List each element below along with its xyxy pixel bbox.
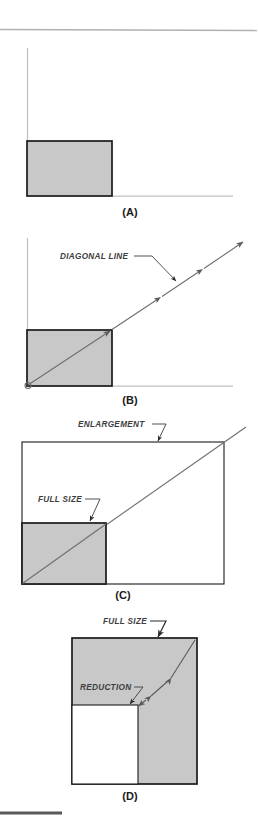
panel-d-label: (D) xyxy=(122,790,138,802)
panel-a-full-size-box xyxy=(27,141,112,196)
panel-b-diagonal-segment-1 xyxy=(112,299,158,330)
panel-d-reduction-box xyxy=(72,705,138,784)
panel-b-diagonal-line-callout-text: DIAGONAL LINE xyxy=(60,252,129,261)
panel-b-diagonal-segment-3 xyxy=(204,242,243,269)
panel-b: DIAGONAL LINE (B) xyxy=(25,238,243,406)
panel-c-enlargement-leader xyxy=(152,424,166,441)
panel-d: FULL SIZE REDUCTION (D) xyxy=(72,617,197,802)
panel-c-full-size-callout-text: FULL SIZE xyxy=(38,495,82,504)
panel-d-full-size-leader xyxy=(150,621,166,637)
panel-b-diagonal-segment-2 xyxy=(162,271,200,297)
panel-d-full-size-callout-text: FULL SIZE xyxy=(103,617,147,626)
top-divider-rule xyxy=(0,30,257,31)
panel-a: (A) xyxy=(27,48,233,218)
panel-b-label: (B) xyxy=(122,394,138,406)
proportional-scaling-diagram: (A) DIAGONAL LINE (B) ENLARGEMENT xyxy=(0,0,258,821)
panel-c: ENLARGEMENT FULL SIZE (C) xyxy=(22,420,246,601)
panel-c-label: (C) xyxy=(115,589,131,601)
panel-a-label: (A) xyxy=(122,206,138,218)
panel-b-diagonal-line-leader xyxy=(134,256,176,281)
panel-d-reduction-callout-text: REDUCTION xyxy=(80,683,132,692)
figure-container: (A) DIAGONAL LINE (B) ENLARGEMENT xyxy=(0,0,258,821)
panel-c-enlargement-callout-text: ENLARGEMENT xyxy=(78,420,145,429)
